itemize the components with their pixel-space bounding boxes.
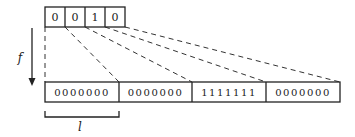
arrow-label-f: f xyxy=(17,51,25,65)
mapping-line-1-right xyxy=(65,27,119,82)
top-bit-0: 0 xyxy=(52,11,59,24)
top-bit-3: 0 xyxy=(112,11,119,24)
mapping-line-2-right xyxy=(85,27,192,82)
mapping-line-4-right xyxy=(125,27,340,82)
bottom-block-1: 0000000 xyxy=(128,87,184,98)
bracket-label-l: l xyxy=(78,120,82,134)
bottom-block-2: 1111111 xyxy=(201,87,257,98)
top-bit-row: 0 0 1 0 xyxy=(45,7,125,27)
mapping-line-3-right xyxy=(105,27,266,82)
mapping-lines xyxy=(45,27,340,82)
arrow-head-icon xyxy=(29,78,36,86)
top-bit-1: 0 xyxy=(72,11,79,24)
bit-expansion-diagram: 0 0 1 0 f 0000000 0000000 1111111 000000… xyxy=(0,0,355,137)
top-bit-2: 1 xyxy=(92,11,99,24)
bottom-block-0: 0000000 xyxy=(54,87,110,98)
bottom-block-3: 0000000 xyxy=(275,87,331,98)
down-arrow xyxy=(29,28,36,86)
length-bracket xyxy=(45,111,119,117)
bottom-block-row: 0000000 0000000 1111111 0000000 xyxy=(45,82,340,102)
